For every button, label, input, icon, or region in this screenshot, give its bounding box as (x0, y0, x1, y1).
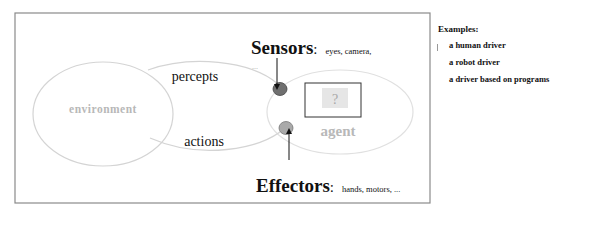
agent-label: agent (321, 123, 356, 139)
effectors-colon: : (330, 179, 334, 195)
sensor-dot (273, 83, 287, 96)
effectors-examples: hands, motors, ... (342, 184, 400, 194)
example-item: a driver based on programs (449, 73, 549, 90)
effectors-heading: Effectors: hands, motors, ... (256, 175, 400, 196)
sensors-heading: Sensors: eyes, camera, (251, 37, 371, 58)
effectors-title: Effectors (256, 175, 330, 196)
environment-label: environment (69, 103, 137, 115)
example-item: a robot driver (449, 56, 549, 73)
agent-question-mark: ? (332, 92, 338, 107)
example-item: a human driver (449, 39, 549, 56)
sensors-continuation: ... (252, 62, 258, 71)
effector-dot (279, 122, 293, 135)
actions-label: actions (184, 134, 224, 149)
sensors-title: Sensors (251, 37, 313, 58)
percepts-label: percepts (172, 69, 219, 84)
examples-panel: Examples: a human driver a robot driver … (438, 24, 549, 90)
sensors-colon: : (313, 41, 317, 57)
sensors-examples: eyes, camera, (325, 46, 371, 56)
examples-title: Examples: (438, 24, 549, 34)
